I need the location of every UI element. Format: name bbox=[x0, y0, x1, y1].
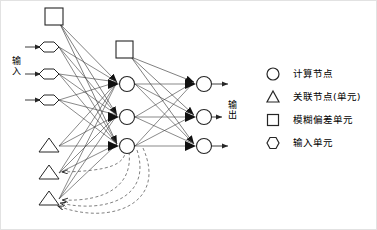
legend-label-association-node: 关联节点(单元) bbox=[293, 91, 360, 102]
hexagon-icon bbox=[262, 135, 284, 151]
legend-item-input-unit: 输入单元 bbox=[262, 131, 374, 154]
computation-node-output-3[interactable] bbox=[197, 139, 212, 154]
input-unit-1[interactable] bbox=[39, 42, 59, 52]
legend-item-association-node: 关联节点(单元) bbox=[262, 85, 374, 108]
legend-label-input-unit: 输入单元 bbox=[293, 137, 333, 148]
legend-label-computation-node: 计算节点 bbox=[293, 68, 333, 79]
association-unit-2[interactable] bbox=[39, 165, 59, 179]
triangle-icon bbox=[262, 89, 284, 105]
association-unit-1[interactable] bbox=[39, 138, 59, 152]
input-unit-3[interactable] bbox=[39, 95, 59, 105]
computation-node-output-2[interactable] bbox=[197, 110, 212, 125]
computation-node-output-1[interactable] bbox=[197, 77, 212, 92]
edges-assoc-hidden bbox=[59, 82, 117, 199]
input-label: 输入 bbox=[10, 56, 22, 76]
computation-node-hidden-3[interactable] bbox=[120, 139, 135, 154]
output-label: 输出 bbox=[226, 100, 238, 120]
input-unit-2[interactable] bbox=[39, 69, 59, 79]
input-arrows bbox=[25, 47, 41, 100]
network-architecture-figure: 输入 输出 计算节点 关联节点(单元) bbox=[0, 0, 377, 230]
circle-icon bbox=[262, 66, 284, 82]
legend-item-fuzzy-bias-unit: 模糊偏差单元 bbox=[262, 108, 374, 131]
computation-node-hidden-2[interactable] bbox=[120, 110, 135, 125]
legend: 计算节点 关联节点(单元) 模糊偏差单元 bbox=[262, 62, 374, 154]
legend-item-computation-node: 计算节点 bbox=[262, 62, 374, 85]
square-icon bbox=[262, 112, 284, 128]
legend-label-fuzzy-bias-unit: 模糊偏差单元 bbox=[293, 114, 353, 125]
fuzzy-bias-unit-1[interactable] bbox=[45, 8, 63, 25]
fuzzy-bias-unit-2[interactable] bbox=[116, 41, 133, 58]
association-unit-3[interactable] bbox=[39, 191, 59, 205]
computation-node-hidden-1[interactable] bbox=[120, 77, 135, 92]
